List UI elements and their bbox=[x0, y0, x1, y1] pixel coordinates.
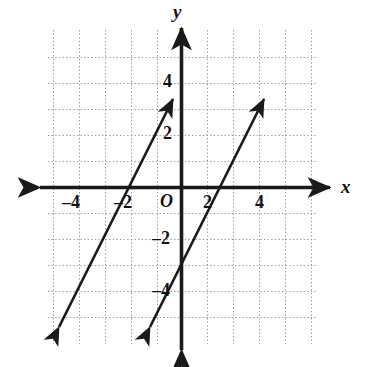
x-tick-label-neg4: –4 bbox=[62, 193, 80, 211]
coordinate-plane-figure: y x –4 –2 O 2 4 4 2 –2 –4 bbox=[0, 0, 365, 367]
x-axis-label: x bbox=[341, 177, 351, 196]
y-axis-label: y bbox=[173, 2, 181, 21]
x-tick-label-neg2: –2 bbox=[114, 193, 132, 211]
y-tick-label-pos4: 4 bbox=[163, 72, 172, 90]
x-tick-label-pos2: 2 bbox=[203, 193, 212, 211]
y-tick-label-neg4: –4 bbox=[152, 281, 170, 299]
x-tick-label-pos4: 4 bbox=[255, 193, 264, 211]
y-tick-label-neg2: –2 bbox=[152, 229, 170, 247]
y-tick-label-pos2: 2 bbox=[163, 124, 172, 142]
origin-label: O bbox=[160, 192, 173, 210]
graph-canvas bbox=[0, 0, 365, 367]
